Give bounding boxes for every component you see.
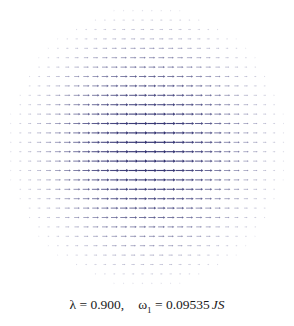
- omega-symbol: ω: [138, 297, 147, 312]
- omega-units: JS: [212, 297, 225, 312]
- omega-value: 0.09535: [166, 297, 210, 312]
- omega-equals: =: [152, 297, 166, 312]
- lambda-equals: =: [76, 297, 90, 312]
- lambda-value: 0.900,: [90, 297, 124, 312]
- figure-root: λ = 0.900,ω1 = 0.09535JS: [0, 0, 294, 326]
- vector-field-canvas: [0, 0, 294, 294]
- quiver-plot-area: [0, 0, 294, 294]
- figure-caption: λ = 0.900,ω1 = 0.09535JS: [0, 296, 294, 319]
